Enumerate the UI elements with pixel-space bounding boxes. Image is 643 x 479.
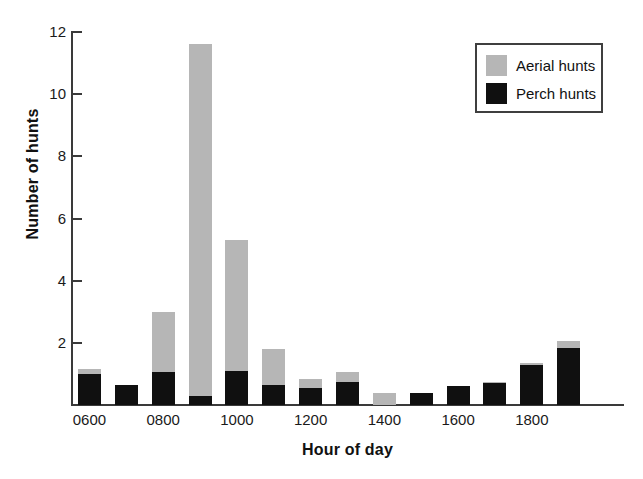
perch-hunts-swatch — [486, 83, 507, 104]
chart-legend: Aerial hunts Perch hunts — [475, 43, 603, 113]
bar-1400 — [373, 393, 396, 405]
bar-segment-aerial-hunts — [299, 379, 322, 388]
bar-segment-perch-hunts — [78, 374, 101, 405]
x-axis-tick-label: 1800 — [502, 412, 562, 428]
bar-0800 — [152, 312, 175, 405]
bar-segment-perch-hunts — [520, 365, 543, 405]
x-axis-tick-label: 0800 — [133, 412, 193, 428]
legend-label-perch-hunts: Perch hunts — [516, 86, 596, 101]
bar-segment-perch-hunts — [299, 388, 322, 405]
aerial-hunts-swatch — [486, 55, 507, 76]
legend-entry-perch-hunts: Perch hunts — [486, 82, 596, 104]
bar-segment-aerial-hunts — [557, 341, 580, 347]
bar-0600 — [78, 369, 101, 405]
bar-1000 — [225, 240, 248, 405]
x-axis-title: Hour of day — [71, 441, 624, 459]
bar-1600 — [447, 386, 470, 405]
bar-segment-aerial-hunts — [189, 44, 212, 395]
legend-label-aerial-hunts: Aerial hunts — [516, 58, 595, 73]
x-axis-tick-label: 1400 — [354, 412, 414, 428]
x-axis-tick-label: 1600 — [428, 412, 488, 428]
y-axis-title: Number of hunts — [24, 94, 42, 254]
bar-segment-aerial-hunts — [336, 372, 359, 381]
y-axis-tick-label: 8 — [26, 148, 66, 163]
y-axis-tick-label: 10 — [26, 86, 66, 101]
bar-segment-perch-hunts — [189, 396, 212, 405]
bar-segment-perch-hunts — [262, 385, 285, 405]
bar-segment-aerial-hunts — [483, 382, 506, 384]
bar-0700 — [115, 385, 138, 405]
bar-segment-perch-hunts — [447, 386, 470, 405]
x-axis-tick-label: 1200 — [281, 412, 341, 428]
bar-segment-perch-hunts — [483, 383, 506, 405]
y-axis-tick-label: 2 — [26, 335, 66, 350]
bar-segment-aerial-hunts — [262, 349, 285, 385]
y-axis-tick-label: 12 — [26, 24, 66, 39]
bar-1900 — [557, 341, 580, 405]
bar-segment-aerial-hunts — [78, 369, 101, 374]
x-axis-tick-label: 0600 — [59, 412, 119, 428]
bar-segment-perch-hunts — [557, 348, 580, 406]
figure-canvas: Number of hunts 24681012 060008001000120… — [0, 0, 643, 479]
bar-segment-aerial-hunts — [225, 240, 248, 371]
x-axis-tick-label: 1000 — [207, 412, 267, 428]
bar-segment-aerial-hunts — [373, 393, 396, 405]
bar-1300 — [336, 372, 359, 405]
bar-segment-aerial-hunts — [520, 363, 543, 365]
y-axis-tick-label: 6 — [26, 211, 66, 226]
bar-1700 — [483, 382, 506, 405]
legend-entry-aerial-hunts: Aerial hunts — [486, 54, 595, 76]
bar-1100 — [262, 349, 285, 405]
bar-segment-perch-hunts — [152, 372, 175, 405]
bar-segment-perch-hunts — [225, 371, 248, 405]
bar-0900 — [189, 44, 212, 405]
bar-segment-perch-hunts — [115, 385, 138, 405]
bar-segment-perch-hunts — [336, 382, 359, 405]
bar-segment-perch-hunts — [410, 393, 433, 405]
bar-segment-aerial-hunts — [152, 312, 175, 373]
bar-1800 — [520, 363, 543, 405]
bar-1200 — [299, 379, 322, 405]
bar-1500 — [410, 393, 433, 405]
y-axis-tick-label: 4 — [26, 273, 66, 288]
